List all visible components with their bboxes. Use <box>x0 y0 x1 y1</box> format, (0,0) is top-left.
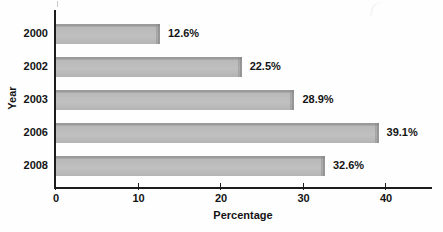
bar-value-label: 39.1% <box>387 126 418 138</box>
x-tick-10 <box>138 183 139 190</box>
bar-end-cap <box>156 24 160 44</box>
x-tick-label-10: 10 <box>132 192 144 204</box>
y-axis-title: Year <box>6 78 18 118</box>
bar-end-cap <box>238 57 242 77</box>
y-category-label-2002: 2002 <box>8 60 48 72</box>
y-category-label-2006: 2006 <box>8 126 48 138</box>
plot-area: 010203040 12.6%200022.5%200228.9%200339.… <box>0 0 443 232</box>
x-tick-0 <box>55 183 56 190</box>
bar-row[interactable] <box>56 156 325 176</box>
bar-row[interactable] <box>56 57 242 77</box>
x-tick-30 <box>303 183 304 190</box>
bar-row[interactable] <box>56 90 294 110</box>
y-category-label-2000: 2000 <box>8 27 48 39</box>
bar-value-label: 28.9% <box>302 93 333 105</box>
y-category-label-2008: 2008 <box>8 159 48 171</box>
x-tick-40 <box>385 183 386 190</box>
bar-end-cap <box>321 156 325 176</box>
bar-end-cap <box>375 123 379 143</box>
x-tick-label-40: 40 <box>380 192 392 204</box>
bar-2003[interactable] <box>56 90 294 110</box>
x-tick-label-20: 20 <box>215 192 227 204</box>
x-tick-20 <box>220 183 221 190</box>
x-axis-title: Percentage <box>54 209 432 221</box>
bar-value-label: 12.6% <box>168 27 199 39</box>
bar-end-cap <box>290 90 294 110</box>
bar-2008[interactable] <box>56 156 325 176</box>
x-tick-label-30: 30 <box>297 192 309 204</box>
x-tick-label-0: 0 <box>53 192 59 204</box>
bar-2006[interactable] <box>56 123 379 143</box>
x-axis-line <box>54 187 432 189</box>
bar-row[interactable] <box>56 123 379 143</box>
bar-row[interactable] <box>56 24 160 44</box>
bar-2000[interactable] <box>56 24 160 44</box>
bar-chart: 010203040 12.6%200022.5%200228.9%200339.… <box>0 0 443 232</box>
bar-2002[interactable] <box>56 57 242 77</box>
bar-value-label: 22.5% <box>250 60 281 72</box>
bar-value-label: 32.6% <box>333 159 364 171</box>
